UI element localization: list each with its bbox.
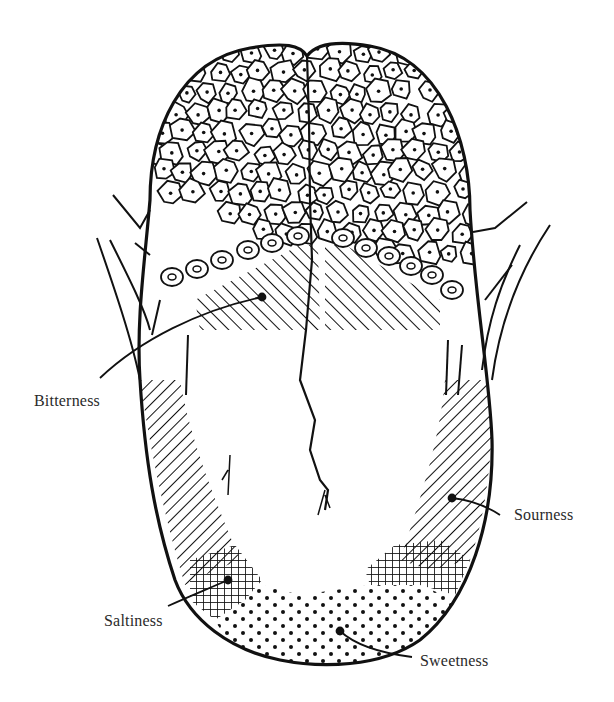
sweetness-region xyxy=(215,585,455,667)
label-saltiness: Saltiness xyxy=(104,612,163,630)
tongue-taste-map-diagram xyxy=(0,0,614,702)
label-bitterness: Bitterness xyxy=(34,392,100,410)
label-sourness: Sourness xyxy=(514,506,573,524)
taste-regions xyxy=(140,245,492,667)
label-sweetness: Sweetness xyxy=(420,652,488,670)
